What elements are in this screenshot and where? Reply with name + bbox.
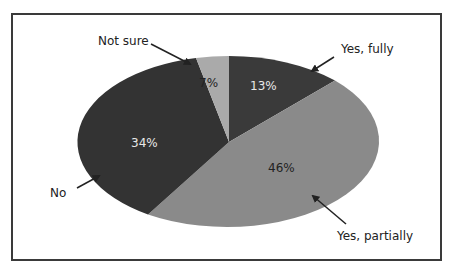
pct-yes-partially: 46%	[268, 161, 295, 175]
label-yes-fully: Yes, fully	[340, 42, 394, 56]
arrow-yes-fully	[312, 57, 334, 71]
label-not-sure: Not sure	[98, 34, 149, 48]
pct-not-sure: 7%	[199, 76, 218, 90]
pie-chart: 7% 13% 34% 46% Not sure Yes, fully No Ye…	[0, 0, 452, 270]
arrow-not-sure	[151, 44, 190, 64]
pct-no: 34%	[131, 136, 158, 150]
pct-yes-fully: 13%	[250, 79, 277, 93]
label-yes-partially: Yes, partially	[336, 229, 413, 243]
label-no: No	[50, 186, 66, 200]
